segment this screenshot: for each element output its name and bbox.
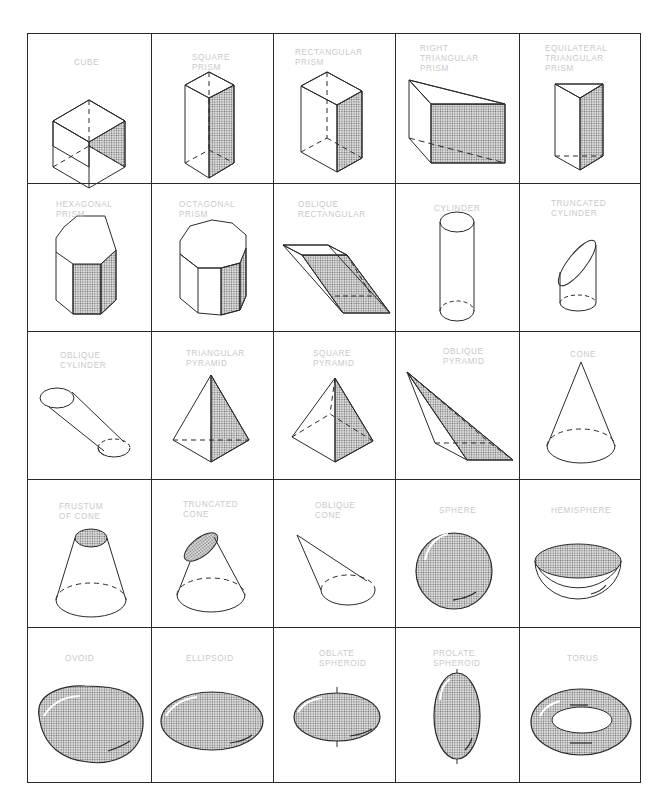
label-sphere: SPHERE bbox=[439, 506, 476, 516]
right-triangular-prism-shape bbox=[409, 80, 505, 163]
prolate-spheroid-shape bbox=[434, 669, 480, 764]
label-triangular-pyramid: TRIANGULAR PYRAMID bbox=[186, 349, 245, 369]
cone-shape bbox=[547, 362, 615, 463]
label-oblique-cone: OBLIQUE CONE bbox=[315, 501, 356, 521]
label-right-triangular-prism: RIGHT TRIANGULAR PRISM bbox=[420, 44, 479, 74]
oblate-spheroid-shape bbox=[294, 687, 380, 747]
label-square-pyramid: SQUARE PYRAMID bbox=[313, 349, 355, 369]
oblique-cone-shape bbox=[297, 535, 375, 605]
label-hexagonal-prism: HEXAGONAL PRISM bbox=[56, 200, 112, 220]
label-oblique-cylinder: OBLIQUE CYLINDER bbox=[60, 351, 106, 371]
label-truncated-cone: TRUNCATED CONE bbox=[183, 500, 238, 520]
label-octagonal-prism: OCTAGONAL PRISM bbox=[179, 200, 235, 220]
triangular-pyramid-shape bbox=[173, 375, 249, 462]
label-cube: CUBE bbox=[74, 58, 99, 68]
label-oblique-rectangular: OBLIQUE RECTANGULAR bbox=[298, 200, 366, 220]
sphere-shape bbox=[416, 533, 492, 609]
label-frustum-of-cone: FRUSTUM OF CONE bbox=[59, 502, 103, 522]
label-ovoid: OVOID bbox=[65, 654, 94, 664]
ellipsoid-shape bbox=[161, 692, 263, 750]
equilateral-triangular-prism-shape bbox=[555, 84, 603, 170]
label-truncated-cylinder: TRUNCATED CYLINDER bbox=[551, 199, 606, 219]
truncated-cone-shape bbox=[177, 528, 245, 612]
rectangular-prism-shape bbox=[301, 72, 362, 172]
label-cone: CONE bbox=[570, 350, 596, 360]
hemisphere-shape bbox=[535, 544, 621, 599]
hexagonal-prism-shape bbox=[56, 216, 116, 314]
label-oblate-spheroid: OBLATE SPHEROID bbox=[319, 649, 367, 669]
cylinder-shape bbox=[440, 212, 474, 321]
shapes-layer bbox=[0, 0, 670, 809]
ovoid-shape bbox=[39, 686, 143, 763]
label-cylinder: CYLINDER bbox=[434, 204, 480, 214]
frustum-of-cone-shape bbox=[56, 529, 126, 617]
geometric-solids-chart: CUBE SQUARE PRISM RECTANGULAR PRISM RIGH… bbox=[0, 0, 670, 809]
cube-shape bbox=[53, 100, 125, 188]
square-prism-shape bbox=[185, 72, 234, 178]
truncated-cylinder-shape bbox=[553, 235, 602, 311]
label-square-prism: SQUARE PRISM bbox=[192, 53, 230, 73]
label-rectangular-prism: RECTANGULAR PRISM bbox=[295, 48, 363, 68]
octagonal-prism-shape bbox=[180, 220, 246, 315]
torus-shape bbox=[531, 689, 631, 755]
label-oblique-pyramid: OBLIQUE PYRAMID bbox=[443, 347, 485, 367]
oblique-cylinder-shape bbox=[40, 388, 130, 457]
label-equilateral-triangular-prism: EQUILATERAL TRIANGULAR PRISM bbox=[545, 44, 607, 74]
oblique-pyramid-shape bbox=[407, 372, 513, 460]
label-hemisphere: HEMISPHERE bbox=[551, 506, 611, 516]
square-pyramid-shape bbox=[292, 378, 373, 462]
label-ellipsoid: ELLIPSOID bbox=[186, 654, 234, 664]
label-torus: TORUS bbox=[567, 654, 599, 664]
oblique-rectangular-shape bbox=[283, 245, 390, 313]
label-prolate-spheroid: PROLATE SPHEROID bbox=[433, 649, 481, 669]
